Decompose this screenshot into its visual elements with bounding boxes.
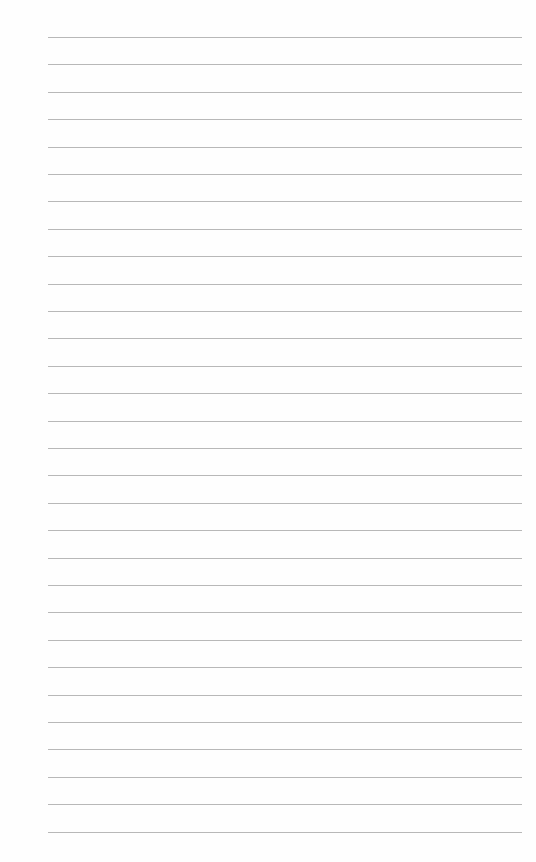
ruled-line (48, 421, 522, 422)
ruled-line (48, 201, 522, 202)
ruled-line (48, 612, 522, 613)
ruled-line (48, 448, 522, 449)
ruled-line (48, 749, 522, 750)
ruled-line (48, 695, 522, 696)
ruled-line (48, 503, 522, 504)
ruled-line (48, 37, 522, 38)
ruled-line (48, 174, 522, 175)
ruled-line (48, 667, 522, 668)
ruled-line (48, 147, 522, 148)
lined-paper-page (0, 0, 536, 862)
ruled-line (48, 338, 522, 339)
ruled-line (48, 256, 522, 257)
ruled-line (48, 558, 522, 559)
ruled-line (48, 366, 522, 367)
ruled-line (48, 530, 522, 531)
ruled-line (48, 92, 522, 93)
ruled-line (48, 640, 522, 641)
ruled-line (48, 119, 522, 120)
ruled-line (48, 777, 522, 778)
ruled-line (48, 585, 522, 586)
ruled-line (48, 393, 522, 394)
ruled-line (48, 311, 522, 312)
ruled-line (48, 284, 522, 285)
ruled-line (48, 832, 522, 833)
ruled-line (48, 229, 522, 230)
ruled-line (48, 64, 522, 65)
ruled-line (48, 804, 522, 805)
ruled-line (48, 722, 522, 723)
ruled-line (48, 475, 522, 476)
